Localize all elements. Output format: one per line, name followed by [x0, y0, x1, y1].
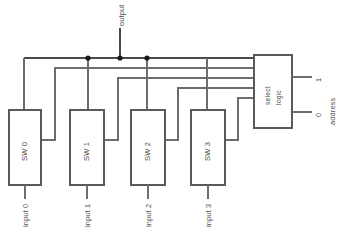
- junction-dot: [85, 55, 90, 60]
- switch-label-sw2: SW 2: [144, 142, 152, 161]
- control-line-sw1: [104, 78, 254, 140]
- diagram-canvas: output SW 0 SW 1 SW 2 SW 3 input 0 input…: [0, 0, 339, 232]
- input-label-sw0: input 0: [22, 204, 29, 227]
- address-bit-label-0: 0: [315, 113, 322, 117]
- junction-dot: [117, 55, 122, 60]
- input-label-sw1: input 1: [84, 204, 91, 227]
- junction-dot: [144, 55, 149, 60]
- control-line-sw3: [225, 98, 254, 140]
- switch-label-sw0: SW 0: [21, 142, 29, 161]
- address-bit-label-1: 1: [315, 78, 322, 82]
- select-logic-box[interactable]: [254, 55, 292, 128]
- switch-label-sw3: SW 3: [204, 142, 212, 161]
- output-label: output: [118, 5, 125, 26]
- switch-label-sw1: SW 1: [83, 142, 91, 161]
- address-label: address: [329, 98, 336, 125]
- input-label-sw2: input 2: [145, 204, 152, 227]
- select-logic-label-line1: select: [265, 86, 272, 105]
- schematic-wiring: [0, 0, 339, 232]
- input-label-sw3: input 3: [205, 204, 212, 227]
- select-logic-label-line2: logic: [276, 90, 283, 105]
